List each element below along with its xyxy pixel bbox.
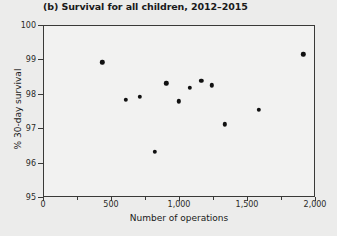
y-axis-tick-label: 96 — [26, 158, 36, 167]
y-axis-tick-label: 99 — [26, 55, 36, 64]
data-point — [222, 122, 226, 126]
page-title: (b) Survival for all children, 2012–2015 — [43, 1, 248, 12]
data-point — [100, 60, 104, 64]
x-axis-tick-label: 0 — [40, 200, 45, 209]
x-axis-minor-tick-mark — [281, 197, 282, 200]
x-axis-minor-tick-mark — [77, 197, 78, 200]
x-axis-label: Number of operations — [43, 213, 315, 223]
data-point — [199, 79, 203, 83]
data-point — [164, 81, 168, 85]
y-axis-tick-labels: 9596979899100 — [0, 0, 36, 236]
data-point — [301, 52, 305, 56]
x-axis-minor-tick-mark — [213, 197, 214, 200]
data-point — [124, 98, 128, 102]
data-point — [256, 107, 260, 111]
data-point — [177, 99, 181, 103]
x-axis-tick-label: 1,000 — [168, 200, 191, 209]
plot-area — [43, 25, 315, 197]
y-axis-tick-label: 98 — [26, 89, 36, 98]
x-axis-minor-tick-mark — [145, 197, 146, 200]
scatter-chart-figure: (b) Survival for all children, 2012–2015… — [0, 0, 337, 236]
data-point — [187, 85, 191, 89]
data-point — [152, 149, 156, 153]
y-axis-tick-label: 95 — [26, 193, 36, 202]
data-point — [137, 94, 141, 98]
x-axis-tick-label: 500 — [103, 200, 118, 209]
y-axis-tick-label: 100 — [21, 21, 36, 30]
x-axis-tick-label: 2,000 — [304, 200, 327, 209]
y-axis-tick-label: 97 — [26, 124, 36, 133]
data-point — [210, 83, 214, 87]
x-axis-tick-label: 1,500 — [236, 200, 259, 209]
